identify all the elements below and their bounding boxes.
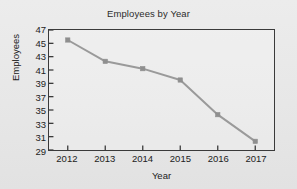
y-tick-label: 39 (35, 78, 46, 89)
x-tick-label: 2016 (208, 153, 229, 164)
line-series-svg (49, 30, 274, 150)
chart-title: Employees by Year (0, 8, 297, 19)
x-tick-label: 2013 (94, 153, 115, 164)
y-tick-label: 37 (35, 91, 46, 102)
y-tick-label: 31 (35, 132, 46, 143)
chart-figure: Employees by Year Employees 293133353739… (0, 0, 297, 189)
data-point-marker (103, 59, 107, 63)
x-axis-title: Year (48, 170, 275, 181)
data-point-marker (253, 139, 257, 143)
y-tick-label: 41 (35, 64, 46, 75)
data-point-marker (141, 67, 145, 71)
y-axis-title: Employees (10, 10, 21, 106)
y-tick-label: 45 (35, 37, 46, 48)
y-tick-label: 33 (35, 118, 46, 129)
data-point-marker (216, 113, 220, 117)
data-point-marker (178, 78, 182, 82)
x-tick-label: 2012 (56, 153, 77, 164)
y-axis-tick-labels: 29313335373941434547 (20, 29, 46, 151)
y-tick-label: 35 (35, 105, 46, 116)
y-tick-label: 47 (35, 24, 46, 35)
y-tick-label: 43 (35, 51, 46, 62)
x-tick-label: 2015 (170, 153, 191, 164)
x-tick-label: 2014 (132, 153, 153, 164)
data-line (68, 40, 256, 141)
x-axis-tick-labels: 201220132014201520162017 (48, 153, 275, 167)
y-tick-label: 29 (35, 146, 46, 157)
plot-area (48, 29, 275, 151)
x-tick-label: 2017 (246, 153, 267, 164)
data-point-marker (66, 38, 70, 42)
